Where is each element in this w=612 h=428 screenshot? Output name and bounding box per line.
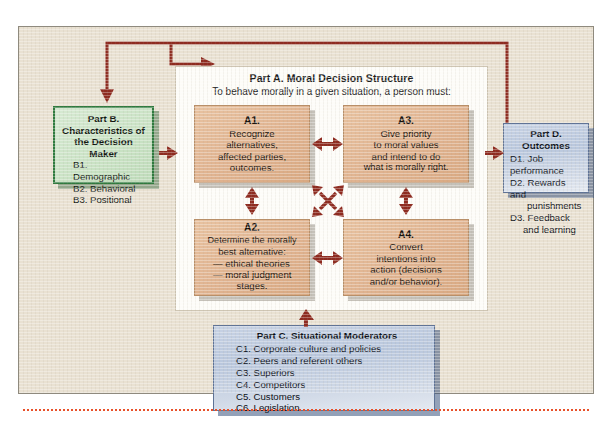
part-a-subheading: To behave morally in a given situation, … [176,86,487,97]
box-a4-wrapper: A4. Convert intentions into action (deci… [343,219,469,296]
box-a2-line-4: — moral judgment [199,269,305,280]
box-a3-label: A3. [398,115,414,126]
box-a2-line-2: best alternative: [199,246,305,257]
part-c-item-c5: C5. Customers [236,391,428,403]
part-b-heading-line-2: Characteristics of [60,125,147,137]
box-a1[interactable]: A1. Recognize alternatives, affected par… [194,105,310,183]
arrow-a3-a4-icon [397,187,415,215]
bottom-dotted-rule [22,408,590,412]
part-c-item-c1: C1. Corporate culture and policies [236,343,428,355]
box-a1-wrapper: A1. Recognize alternatives, affected par… [194,105,310,183]
part-d-wrapper: Part D. Outcomes D1. Job performance D2.… [503,123,589,193]
part-b-heading-line-1: Part B. [60,113,147,125]
box-a4-line-3: action (decisions [348,264,464,275]
box-a4-label: A4. [398,229,414,240]
box-a4-line-1: Convert [348,241,464,252]
box-a3-line-4: what is morally right. [348,162,464,173]
box-a2-body: Determine the morally best alternative: … [199,235,305,292]
box-a1-line-3: affected parties, [199,151,305,162]
part-a-panel: Part A. Moral Decision Structure To beha… [175,66,488,311]
box-a1-body: Recognize alternatives, affected parties… [199,128,305,174]
part-a-heading: Part A. Moral Decision Structure [176,72,487,84]
box-a3-line-3: and intend to do [348,151,464,162]
box-a1-line-1: Recognize [199,128,305,139]
box-a1-label: A1. [244,115,260,126]
part-b-heading-line-3: the Decision Maker [60,136,147,159]
box-a2-line-1: Determine the morally [199,235,305,246]
box-a2-line-3: — ethical theories [199,258,305,269]
box-a2[interactable]: A2. Determine the morally best alternati… [194,219,310,296]
arrow-a2-a4-icon [312,249,343,267]
diagram-root: Part A. Moral Decision Structure To beha… [0,0,612,428]
arrow-a1-a2-icon [243,187,261,215]
part-c-box[interactable]: Part C. Situational Moderators C1. Corpo… [213,325,435,411]
feedback-arrowhead-to-part-b [100,89,114,103]
part-c-item-c2: C2. Peers and referent others [236,355,428,367]
part-d-item-d1: D1. Job performance [510,153,582,177]
box-a4-body: Convert intentions into action (decision… [348,241,464,287]
part-c-item-c3: C3. Superiors [236,367,428,379]
arrow-diagonal-cross-icon [311,185,345,217]
part-d-heading: Part D. Outcomes [510,128,582,152]
diagram-frame: Part A. Moral Decision Structure To beha… [18,26,594,394]
part-c-wrapper: Part C. Situational Moderators C1. Corpo… [213,325,435,411]
part-d-item-d3: D3. Feedback [510,212,582,224]
box-a3[interactable]: A3. Give priority to moral values and in… [343,105,469,183]
arrow-part-b-to-a1-icon [159,145,178,161]
part-b-item-b2: B2. Behavioral [60,183,147,195]
box-a3-line-1: Give priority [348,128,464,139]
part-b-box[interactable]: Part B. Characteristics of the Decision … [53,106,154,184]
part-c-item-c4: C4. Competitors [236,379,428,391]
part-b-item-b1: B1. Demographic [60,159,147,182]
part-b-item-b3: B3. Positional [60,194,147,206]
part-c-heading: Part C. Situational Moderators [226,330,428,342]
box-a3-line-2: to moral values [348,139,464,150]
box-a4[interactable]: A4. Convert intentions into action (deci… [343,219,469,296]
box-a3-body: Give priority to moral values and intend… [348,128,464,174]
box-a3-wrapper: A3. Give priority to moral values and in… [343,105,469,183]
part-d-item-d3-cont: and learning [510,224,582,236]
arrow-a1-a3-icon [312,135,343,153]
box-a1-line-2: alternatives, [199,139,305,150]
arrow-a3-to-part-d-icon [485,145,504,161]
arrow-part-c-to-a4-icon [299,309,315,327]
part-d-item-d2-cont: punishments [510,200,582,212]
box-a1-line-4: outcomes. [199,162,305,173]
part-d-item-d2: D2. Rewards and [510,177,582,201]
box-a2-line-5: stages. [199,280,305,291]
part-b-wrapper: Part B. Characteristics of the Decision … [53,106,154,184]
box-a2-label: A2. [244,222,260,233]
part-d-box[interactable]: Part D. Outcomes D1. Job performance D2.… [503,123,589,193]
box-a4-line-2: intentions into [348,253,464,264]
box-a4-line-4: and/or behavior). [348,276,464,287]
box-a2-wrapper: A2. Determine the morally best alternati… [194,219,310,296]
